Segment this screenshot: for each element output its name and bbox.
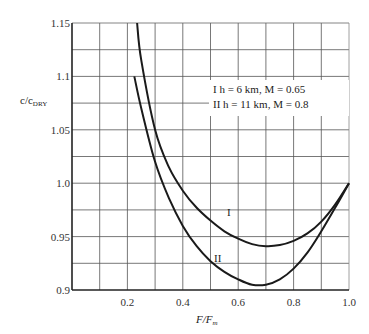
x-tick-label: 1.0 — [342, 296, 356, 308]
y-axis-label-main: c/c — [20, 94, 33, 106]
x-tick-label: 0.6 — [231, 296, 245, 308]
x-tick-label: 0.2 — [121, 296, 135, 308]
curve-I — [137, 23, 349, 246]
legend-entry-1: I h = 6 km, M = 0.65 — [213, 83, 306, 95]
y-tick-label: 1.0 — [56, 177, 70, 189]
y-tick-label: 1.15 — [51, 17, 71, 29]
curve-label-II: II — [214, 252, 222, 264]
x-axis-label-main: F/F — [195, 313, 213, 325]
legend-entry-2: II h = 11 km, M = 0.8 — [213, 98, 309, 110]
y-tick-label: 0.9 — [56, 284, 70, 296]
x-tick-label: 0.4 — [176, 296, 190, 308]
y-tick-labels: 0.90.951.01.051.11.15 — [51, 17, 71, 296]
x-axis-label-sub: m — [213, 319, 218, 327]
y-tick-label: 0.95 — [51, 231, 71, 243]
curves — [134, 23, 349, 285]
curve-label-I: I — [227, 206, 231, 218]
grid — [72, 23, 349, 290]
chart: 0.90.951.01.051.11.15 0.20.40.60.81.0 I … — [0, 0, 369, 334]
y-axis-label-sub: DRY — [33, 100, 47, 108]
x-tick-labels: 0.20.40.60.81.0 — [121, 296, 357, 308]
y-tick-label: 1.1 — [56, 70, 70, 82]
x-axis-label: F/Fm — [195, 313, 218, 327]
y-axis-label: c/cDRY — [20, 94, 47, 108]
x-tick-label: 0.8 — [287, 296, 301, 308]
y-tick-label: 1.05 — [51, 124, 71, 136]
